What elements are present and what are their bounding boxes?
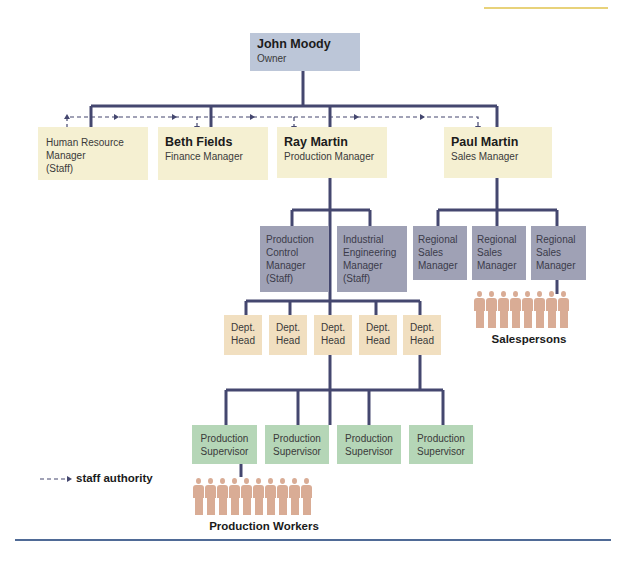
person-icon: [534, 291, 545, 328]
person-icon: [498, 291, 509, 328]
dept-head-box: Dept. Head: [359, 315, 397, 355]
dept-head-box: Dept. Head: [269, 315, 307, 355]
box-line: Head: [269, 334, 307, 347]
owner-title: Owner: [257, 52, 353, 65]
salespersons-icons: [474, 291, 569, 328]
box-line: Engineering: [343, 246, 401, 259]
box-line: Supervisor: [337, 445, 401, 458]
box-line: Production: [266, 233, 322, 246]
regional-sales-manager-box: Regional Sales Manager: [472, 226, 526, 280]
box-line: Regional: [418, 233, 462, 246]
person-icon: [229, 478, 240, 515]
box-line: Control: [266, 246, 322, 259]
box-line: Regional: [536, 233, 581, 246]
box-line: Manager: [266, 259, 322, 272]
salespersons-label: Salespersons: [474, 333, 584, 345]
box-line: (Staff): [266, 272, 322, 285]
box-line: Sales: [536, 246, 581, 259]
person-icon: [486, 291, 497, 328]
box-line: Head: [224, 334, 262, 347]
box-line: Production: [409, 432, 473, 445]
box-line: Industrial: [343, 233, 401, 246]
box-line: Sales: [477, 246, 521, 259]
bottom-rule: [15, 539, 611, 541]
dept-head-box: Dept. Head: [314, 315, 352, 355]
production-supervisor-box: Production Supervisor: [409, 425, 473, 464]
person-icon: [265, 478, 276, 515]
person-icon: [289, 478, 300, 515]
box-line: Production: [192, 432, 257, 445]
person-icon: [510, 291, 521, 328]
box-line: Dept.: [224, 321, 262, 334]
box-line: Production: [337, 432, 401, 445]
person-icon: [546, 291, 557, 328]
production-manager-name: Ray Martin: [284, 135, 380, 150]
production-workers-icons: [193, 478, 312, 515]
box-line: Supervisor: [192, 445, 257, 458]
box-line: Dept.: [359, 321, 397, 334]
person-icon: [205, 478, 216, 515]
box-line: Dept.: [269, 321, 307, 334]
sales-manager-name: Paul Martin: [451, 135, 545, 150]
box-line: Sales: [418, 246, 462, 259]
box-line: Manager: [536, 259, 581, 272]
person-icon: [558, 291, 569, 328]
box-line: Dept.: [314, 321, 352, 334]
legend: staff authority: [76, 472, 153, 484]
owner-name: John Moody: [257, 37, 353, 52]
hr-manager-line: Human Resource: [46, 136, 140, 149]
production-manager-box: Ray Martin Production Manager: [277, 127, 387, 178]
box-line: Manager: [343, 259, 401, 272]
dept-head-box: Dept. Head: [224, 315, 262, 355]
production-manager-title: Production Manager: [284, 150, 380, 163]
hr-manager-line: (Staff): [46, 162, 140, 175]
box-line: Supervisor: [409, 445, 473, 458]
person-icon: [241, 478, 252, 515]
legend-staff-authority: staff authority: [76, 472, 153, 484]
person-icon: [301, 478, 312, 515]
production-supervisor-box: Production Supervisor: [265, 425, 329, 464]
box-line: Regional: [477, 233, 521, 246]
person-icon: [474, 291, 485, 328]
person-icon: [217, 478, 228, 515]
person-icon: [193, 478, 204, 515]
person-icon: [522, 291, 533, 328]
regional-sales-manager-box: Regional Sales Manager: [413, 226, 467, 280]
owner-box: John Moody Owner: [250, 33, 360, 71]
box-line: Head: [359, 334, 397, 347]
box-line: (Staff): [343, 272, 401, 285]
industrial-engineering-manager-box: Industrial Engineering Manager (Staff): [337, 226, 407, 292]
box-line: Manager: [477, 259, 521, 272]
person-icon: [277, 478, 288, 515]
hr-manager-box: Human Resource Manager (Staff): [38, 127, 148, 180]
box-line: Dept.: [403, 321, 441, 334]
production-workers-label: Production Workers: [193, 520, 335, 532]
box-line: Head: [314, 334, 352, 347]
sales-manager-box: Paul Martin Sales Manager: [444, 127, 552, 178]
hr-manager-line: Manager: [46, 149, 140, 162]
regional-sales-manager-box: Regional Sales Manager: [531, 226, 586, 280]
production-control-manager-box: Production Control Manager (Staff): [260, 226, 328, 292]
dept-head-box: Dept. Head: [403, 315, 441, 355]
box-line: Supervisor: [265, 445, 329, 458]
box-line: Manager: [418, 259, 462, 272]
finance-manager-title: Finance Manager: [165, 150, 261, 163]
production-supervisor-box: Production Supervisor: [192, 425, 257, 464]
finance-manager-box: Beth Fields Finance Manager: [158, 127, 268, 180]
finance-manager-name: Beth Fields: [165, 135, 261, 150]
sales-manager-title: Sales Manager: [451, 150, 545, 163]
person-icon: [253, 478, 264, 515]
production-supervisor-box: Production Supervisor: [337, 425, 401, 464]
box-line: Head: [403, 334, 441, 347]
box-line: Production: [265, 432, 329, 445]
